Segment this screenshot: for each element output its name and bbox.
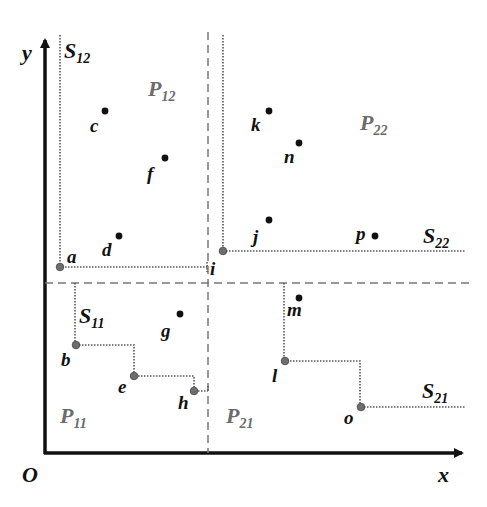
point-e (130, 372, 138, 380)
point-a (56, 263, 64, 271)
skyline-path-s11 (75, 283, 208, 391)
point-h (190, 387, 198, 395)
point-label-b: b (61, 349, 71, 370)
point-p (372, 233, 379, 240)
point-label-l: l (272, 365, 278, 386)
point-n (296, 140, 303, 147)
point-label-g: g (160, 320, 171, 341)
region-label-p22: P22 (359, 110, 387, 138)
point-label-a: a (67, 246, 77, 267)
region-label-p21: P21 (225, 403, 253, 431)
origin-label: O (22, 462, 38, 487)
point-label-d: d (102, 239, 112, 260)
point-i (219, 247, 227, 255)
point-label-f: f (147, 163, 155, 184)
x-axis-label: x (437, 462, 449, 487)
point-j (266, 217, 273, 224)
point-label-o: o (344, 407, 354, 428)
region-label-p12: P12 (147, 76, 175, 104)
skyline-path-s22 (223, 35, 466, 251)
point-label-n: n (284, 146, 295, 167)
skyline-partition-diagram: y O x P12 P22 P11 P21 S12 S22 S11 S21 a … (0, 0, 487, 507)
point-l (281, 357, 289, 365)
point-b (72, 341, 80, 349)
skyline-path-s21 (284, 283, 466, 407)
point-label-i: i (210, 258, 216, 279)
skyline-label-s12: S12 (64, 38, 90, 66)
skyline-path-s12 (60, 35, 207, 272)
skyline-label-s21: S21 (422, 378, 448, 406)
skyline-label-s11: S11 (79, 303, 104, 331)
skyline-paths (60, 35, 466, 407)
y-axis-label: y (19, 40, 32, 65)
point-label-c: c (90, 115, 99, 136)
point-label-e: e (118, 376, 127, 397)
point-label-k: k (251, 114, 261, 135)
point-g (177, 311, 184, 318)
point-c (102, 108, 109, 115)
point-label-m: m (287, 299, 302, 320)
region-label-p11: P11 (59, 403, 87, 431)
point-label-j: j (250, 226, 259, 247)
point-labels: a c f d i k n j p g b e h m l o (61, 114, 366, 428)
point-k (266, 108, 273, 115)
point-d (116, 233, 123, 240)
skyline-label-s22: S22 (423, 223, 449, 251)
point-label-h: h (178, 392, 189, 413)
regular-points (102, 108, 379, 318)
point-label-p: p (354, 223, 366, 244)
point-f (162, 155, 169, 162)
point-o (357, 403, 365, 411)
